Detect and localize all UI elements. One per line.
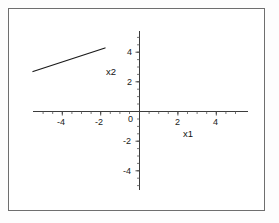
plot-svg bbox=[0, 0, 279, 223]
y-tick-label-2: 2 bbox=[127, 77, 132, 87]
y-tick-label-neg2: -2 bbox=[123, 136, 131, 146]
y-tick-label-4: 4 bbox=[127, 47, 132, 57]
x-axis-name-label: x1 bbox=[183, 129, 193, 139]
data-line-segment bbox=[33, 48, 105, 72]
x-tick-label-neg4: -4 bbox=[57, 117, 65, 127]
figure-canvas: -4 -2 0 2 4 4 2 -2 -4 x2 x1 bbox=[0, 0, 279, 223]
x-tick-label-neg2: -2 bbox=[95, 117, 103, 127]
y-axis-name-label: x2 bbox=[106, 67, 116, 77]
y-tick-label-neg4: -4 bbox=[123, 166, 131, 176]
x-tick-label-zero: 0 bbox=[128, 114, 133, 124]
x-tick-label-pos4: 4 bbox=[213, 117, 218, 127]
x-tick-label-pos2: 2 bbox=[175, 117, 180, 127]
